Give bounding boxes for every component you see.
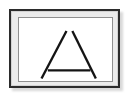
triangle-stroke-group [42, 31, 96, 78]
screenshot-root [0, 0, 133, 102]
picture-frame[interactable] [9, 9, 120, 88]
frame-mat [11, 11, 118, 86]
triangle-drawing [19, 18, 112, 81]
drawing-canvas[interactable] [18, 17, 113, 82]
